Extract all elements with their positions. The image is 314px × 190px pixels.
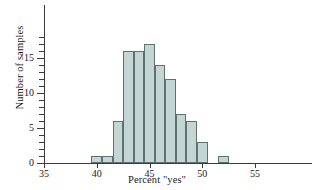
x-axis-title: Percent "yes" <box>0 174 314 185</box>
histogram-bar <box>91 156 102 163</box>
histogram-bar <box>186 121 197 163</box>
histogram-bar <box>113 121 124 163</box>
histogram-bar <box>155 65 166 163</box>
histogram-figure: Number of samples 051015 3540455055 Perc… <box>0 0 314 190</box>
histogram-bar <box>123 51 134 163</box>
histogram-bar <box>144 44 155 163</box>
histogram-bar <box>102 156 113 163</box>
histogram-bar <box>218 156 229 163</box>
histogram-bar <box>165 79 176 163</box>
histogram-bars <box>0 0 314 190</box>
histogram-bar <box>176 114 187 163</box>
histogram-bar <box>134 51 145 163</box>
histogram-bar <box>197 142 208 163</box>
